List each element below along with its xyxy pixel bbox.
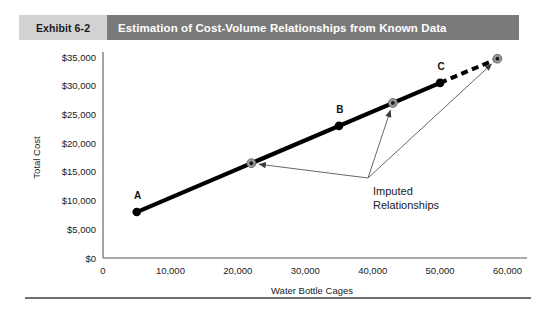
y-axis-title: Total Cost xyxy=(31,136,42,179)
annotation-leader-lines xyxy=(259,64,492,178)
y-axis-tick-labels: $0$5,000$10,000$15,000$20,000$25,000$30,… xyxy=(62,52,96,264)
y-tick-label: $30,000 xyxy=(62,80,96,91)
x-axis-title: Water Bottle Cages xyxy=(271,285,353,296)
annotation-arrowhead xyxy=(259,162,266,168)
annotation-text-line-1: Imputed xyxy=(373,185,413,197)
y-tick-label: $35,000 xyxy=(62,52,96,63)
point-label-c: C xyxy=(437,61,444,72)
x-tick-label: 0 xyxy=(100,265,105,276)
y-tick-label: $25,000 xyxy=(62,109,96,120)
imputed-point-marker xyxy=(247,159,256,168)
imputed-point-marker xyxy=(493,54,502,63)
exhibit-figure: Exhibit 6-2 Estimation of Cost-Volume Re… xyxy=(0,0,551,313)
x-tick-label: 40,000 xyxy=(358,265,387,276)
y-tick-label: $20,000 xyxy=(62,138,96,149)
y-tick-label: $0 xyxy=(85,253,96,264)
known-point-marker xyxy=(132,208,141,217)
point-label-a: A xyxy=(134,190,141,201)
x-tick-label: 10,000 xyxy=(156,265,185,276)
figure-bottom-rule xyxy=(25,297,531,299)
known-point-marker xyxy=(436,79,445,88)
x-tick-label: 60,000 xyxy=(493,265,522,276)
annotation-leader-line xyxy=(259,164,368,178)
y-tick-label: $15,000 xyxy=(62,166,96,177)
x-tick-label: 30,000 xyxy=(291,265,320,276)
y-tick-label: $10,000 xyxy=(62,195,96,206)
known-point-marker xyxy=(335,122,344,131)
annotation-text: ImputedRelationships xyxy=(373,185,440,211)
y-tick-label: $5,000 xyxy=(67,224,96,235)
cost-volume-chart: $0$5,000$10,000$15,000$20,000$25,000$30,… xyxy=(0,0,551,313)
annotation-arrowhead xyxy=(385,110,391,118)
point-label-b: B xyxy=(336,104,343,115)
x-tick-label: 20,000 xyxy=(223,265,252,276)
imputed-point-marker xyxy=(389,99,398,108)
x-tick-label: 50,000 xyxy=(426,265,455,276)
x-axis-tick-labels: 010,00020,00030,00040,00050,00060,000 xyxy=(100,265,522,276)
chart-axes xyxy=(103,52,527,258)
annotation-text-line-2: Relationships xyxy=(373,199,440,211)
known-point-labels: ABC xyxy=(134,61,445,201)
